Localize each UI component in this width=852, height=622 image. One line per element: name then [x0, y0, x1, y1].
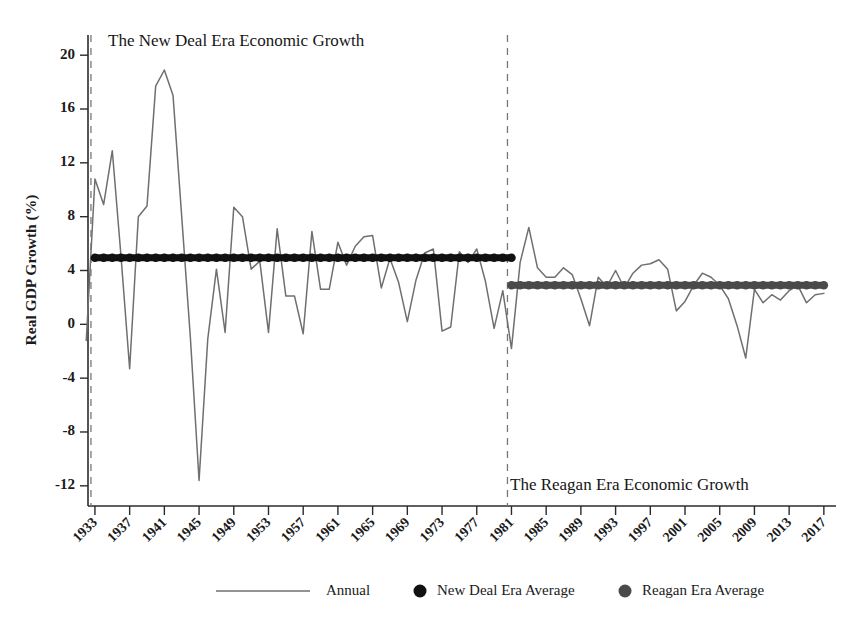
average-marker-point: [715, 281, 724, 290]
x-tick-label: 1977: [451, 515, 481, 545]
average-marker-point: [681, 281, 690, 290]
x-tick-label: 1993: [590, 515, 620, 545]
average-marker-point: [794, 281, 803, 290]
average-marker-point: [394, 253, 403, 262]
average-marker-point: [143, 253, 152, 262]
average-marker-point: [455, 253, 464, 262]
x-tick-label: 1953: [243, 515, 273, 545]
average-marker-point: [698, 281, 707, 290]
average-marker-point: [290, 253, 299, 262]
average-marker-point: [655, 281, 664, 290]
average-marker-point: [750, 281, 759, 290]
y-tick-label: 8: [68, 207, 76, 223]
legend-marker-reagan-average: [619, 585, 632, 598]
average-marker-point: [273, 253, 282, 262]
average-marker-point: [498, 253, 507, 262]
average-marker-point: [368, 253, 377, 262]
y-axis-label: Real GDP Growth (%): [22, 195, 40, 346]
x-tick-label: 2017: [799, 515, 829, 545]
legend-label-reagan-average: Reagan Era Average: [642, 582, 764, 598]
x-tick-label: 1949: [208, 515, 238, 545]
average-marker-point: [186, 253, 195, 262]
average-marker-point: [759, 281, 768, 290]
average-marker-point: [533, 281, 542, 290]
average-marker-point: [429, 253, 438, 262]
average-marker-point: [308, 253, 317, 262]
gdp-growth-chart: Real GDP Growth (%) 201612840-4-8-12 193…: [0, 0, 852, 622]
average-marker-point: [646, 281, 655, 290]
y-tick-label: -8: [63, 422, 76, 438]
average-marker-point: [438, 253, 447, 262]
average-marker-point: [672, 281, 681, 290]
average-marker-point: [229, 253, 238, 262]
average-marker-point: [481, 253, 490, 262]
average-marker-point: [446, 253, 455, 262]
average-marker-point: [776, 281, 785, 290]
y-tick-label: 20: [60, 46, 75, 62]
average-marker-point: [238, 253, 247, 262]
average-marker-point: [325, 253, 334, 262]
x-tick-label: 1945: [174, 515, 204, 545]
average-marker-point: [125, 253, 134, 262]
x-tick-label: 1985: [521, 515, 551, 545]
average-marker-point: [117, 253, 126, 262]
average-marker-point: [99, 253, 108, 262]
average-marker-point: [221, 253, 230, 262]
average-marker-point: [724, 281, 733, 290]
average-marker-point: [351, 253, 360, 262]
x-tick-label: 1981: [486, 515, 516, 545]
average-marker-point: [464, 253, 473, 262]
legend-label-annual: Annual: [326, 582, 370, 598]
average-marker-point: [195, 253, 204, 262]
average-marker-point: [403, 253, 412, 262]
y-axis-label-text: Real GDP Growth (%): [22, 195, 40, 346]
y-tick-label: 4: [68, 261, 76, 277]
y-tick-label: 16: [60, 99, 76, 115]
x-tick-label: 2013: [764, 515, 794, 545]
average-marker-point: [802, 281, 811, 290]
average-marker-point: [160, 253, 169, 262]
average-marker-point: [169, 253, 178, 262]
average-marker-point: [360, 253, 369, 262]
x-tick-label: 1973: [417, 515, 447, 545]
average-marker-point: [203, 253, 212, 262]
average-marker-point: [472, 253, 481, 262]
average-marker-point: [629, 281, 638, 290]
reagan-era-annotation: The Reagan Era Economic Growth: [510, 475, 749, 494]
reagan-average-series: [507, 281, 828, 290]
average-marker-point: [256, 253, 265, 262]
average-marker-point: [663, 281, 672, 290]
x-tick-label: 1937: [104, 515, 134, 545]
x-tick-label: 1957: [278, 515, 308, 545]
new-deal-average-series: [91, 253, 516, 262]
average-marker-point: [603, 281, 612, 290]
y-axis-ticks: 201612840-4-8-12: [55, 46, 88, 493]
x-tick-label: 1933: [70, 515, 100, 545]
average-marker-point: [247, 253, 256, 262]
new-deal-era-annotation: The New Deal Era Economic Growth: [108, 31, 365, 50]
average-marker-point: [594, 281, 603, 290]
average-marker-point: [551, 281, 560, 290]
legend-label-new-deal-average: New Deal Era Average: [437, 582, 575, 598]
x-tick-label: 2001: [660, 515, 690, 545]
average-marker-point: [620, 281, 629, 290]
average-marker-point: [490, 253, 499, 262]
average-marker-point: [611, 281, 620, 290]
average-marker-point: [741, 281, 750, 290]
average-marker-point: [733, 281, 742, 290]
average-marker-point: [134, 253, 143, 262]
average-marker-point: [316, 253, 325, 262]
average-marker-point: [559, 281, 568, 290]
x-tick-label: 2009: [729, 515, 759, 545]
average-marker-point: [507, 281, 516, 290]
average-marker-point: [386, 253, 395, 262]
x-tick-label: 1969: [382, 515, 412, 545]
average-marker-point: [689, 281, 698, 290]
average-marker-point: [212, 253, 221, 262]
legend-marker-new-deal-average: [414, 585, 427, 598]
average-marker-point: [151, 253, 160, 262]
average-marker-point: [820, 281, 829, 290]
average-marker-point: [420, 253, 429, 262]
average-marker-point: [525, 281, 534, 290]
average-marker-point: [585, 281, 594, 290]
